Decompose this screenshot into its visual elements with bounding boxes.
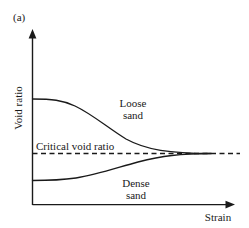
void-ratio-strain-chart: (a) Void ratio Strain Critical void rati…	[0, 0, 249, 228]
y-axis-arrow-icon	[29, 29, 37, 39]
dense-sand-label-line1: Dense	[122, 177, 150, 189]
x-axis-title: Strain	[205, 211, 232, 223]
y-axis-title: Void ratio	[12, 86, 24, 130]
panel-label: (a)	[13, 11, 26, 24]
dense-sand-label-line2: sand	[126, 189, 147, 201]
loose-sand-label-line1: Loose	[120, 97, 147, 109]
critical-void-ratio-label: Critical void ratio	[36, 140, 115, 152]
loose-sand-label-line2: sand	[123, 109, 144, 121]
figure-panel: (a) Void ratio Strain Critical void rati…	[0, 0, 249, 228]
x-axis-arrow-icon	[226, 201, 236, 209]
